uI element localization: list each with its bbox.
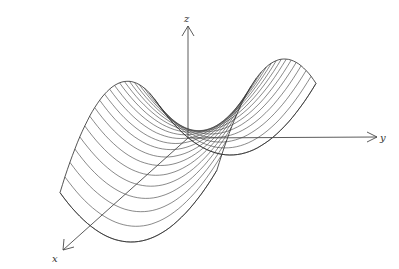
x-axis-label: x [52,253,58,264]
surface-line [159,83,316,155]
saddle-surface-diagram: z y x [0,0,399,269]
surface-line [120,61,277,133]
surface-edge [60,81,159,192]
z-axis-label: z [183,13,190,24]
surface-line [65,155,222,227]
surface-line [70,140,227,212]
x-axis [63,138,188,250]
y-axis-label: y [379,132,386,143]
surface-line [134,60,291,132]
surface-edge [159,83,316,155]
axes: z y x [52,13,386,264]
surface-line [129,59,286,131]
